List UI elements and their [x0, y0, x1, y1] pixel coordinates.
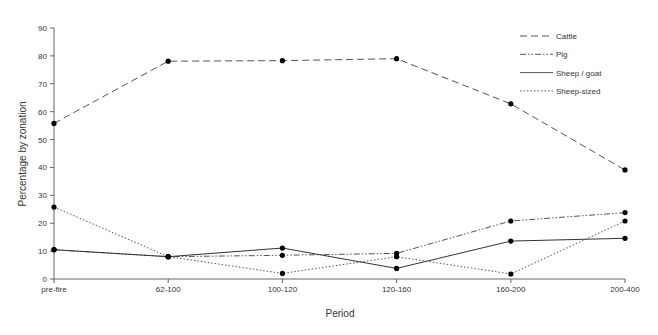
legend-label: Sheep / goat: [556, 69, 602, 78]
y-tick-label: 90: [38, 24, 47, 33]
series-pig: [51, 210, 627, 259]
x-tick-label: pre-fire: [41, 285, 67, 294]
data-point: [622, 236, 627, 241]
x-tick-label: 100-120: [268, 285, 298, 294]
y-tick-label: 40: [38, 163, 47, 172]
series-line: [54, 238, 625, 268]
x-tick-label: 62-100: [156, 285, 181, 294]
y-axis-label: Percentage by zonation: [17, 101, 28, 206]
legend-item: Cattle: [520, 32, 577, 41]
legend-label: Cattle: [556, 32, 577, 41]
legend-label: Sheep-sized: [556, 87, 600, 96]
y-tick-label: 30: [38, 191, 47, 200]
data-point: [394, 266, 399, 271]
line-chart: 0102030405060708090pre-fire62-100100-120…: [0, 0, 658, 335]
data-point: [280, 245, 285, 250]
data-point: [51, 204, 56, 209]
data-point: [508, 238, 513, 243]
series-cattle: [51, 56, 627, 172]
legend-item: Sheep / goat: [520, 69, 602, 78]
data-point: [51, 121, 56, 126]
data-point: [622, 210, 627, 215]
data-point: [166, 59, 171, 64]
data-point: [280, 253, 285, 258]
data-point: [394, 56, 399, 61]
y-tick-label: 80: [38, 52, 47, 61]
data-point: [508, 271, 513, 276]
data-point: [280, 271, 285, 276]
legend: CattlePigSheep / goatSheep-sized: [520, 32, 602, 96]
legend-item: Sheep-sized: [520, 87, 600, 96]
y-tick-label: 20: [38, 219, 47, 228]
data-point: [51, 247, 56, 252]
x-tick-label: 160-200: [496, 285, 526, 294]
data-point: [508, 218, 513, 223]
data-point: [280, 58, 285, 63]
series-sheep-goat: [51, 236, 627, 271]
y-tick-label: 50: [38, 136, 47, 145]
series-line: [54, 213, 625, 257]
y-tick-label: 70: [38, 80, 47, 89]
x-axis-label: Period: [326, 308, 355, 319]
axes: 0102030405060708090pre-fire62-100100-120…: [38, 24, 640, 294]
data-point: [622, 218, 627, 223]
y-tick-label: 0: [43, 275, 48, 284]
y-tick-label: 60: [38, 108, 47, 117]
data-point: [394, 254, 399, 259]
series-line: [54, 59, 625, 170]
x-tick-label: 200-400: [610, 285, 640, 294]
legend-item: Pig: [520, 50, 568, 59]
legend-label: Pig: [556, 50, 568, 59]
data-point: [508, 101, 513, 106]
y-tick-label: 10: [38, 247, 47, 256]
data-point: [166, 254, 171, 259]
x-tick-label: 120-160: [382, 285, 412, 294]
series-lines: [51, 56, 627, 277]
data-point: [622, 167, 627, 172]
